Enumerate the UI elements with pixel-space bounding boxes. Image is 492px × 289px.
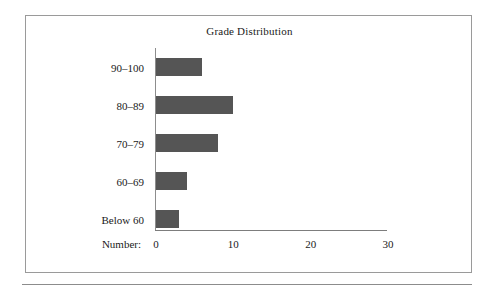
x-tick-0: 0 — [153, 238, 159, 250]
bar-below-60 — [156, 210, 179, 228]
value-axis-label: Number: — [102, 238, 141, 250]
bar-chart-plot-area: 90–100 80–89 70–79 60–69 Below 60 Number… — [26, 16, 473, 274]
x-tick-30: 30 — [383, 238, 394, 250]
value-axis-line — [155, 230, 387, 231]
bar-70-79 — [156, 134, 218, 152]
x-tick-10: 10 — [228, 238, 239, 250]
bar-80-89 — [156, 96, 233, 114]
category-label-90-100: 90–100 — [111, 62, 144, 74]
category-label-60-69: 60–69 — [117, 176, 145, 188]
bar-60-69 — [156, 172, 187, 190]
figure-frame: Grade Distribution 90–100 80–89 70–79 60… — [25, 15, 472, 273]
footer-rule — [22, 284, 472, 285]
category-label-70-79: 70–79 — [117, 138, 145, 150]
category-label-below-60: Below 60 — [102, 214, 144, 226]
x-tick-20: 20 — [305, 238, 316, 250]
bar-90-100 — [156, 58, 202, 76]
category-label-80-89: 80–89 — [117, 100, 145, 112]
